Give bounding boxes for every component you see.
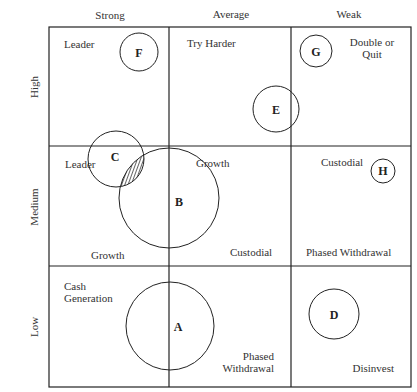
cell-medium-average-top-label: Growth xyxy=(196,157,230,169)
row-header-medium: Medium xyxy=(28,188,40,226)
cell-medium-weak-bottom-label: Phased Withdrawal xyxy=(306,246,391,258)
column-header-strong: Strong xyxy=(95,9,125,21)
matrix-grid xyxy=(49,27,411,387)
cell-medium-weak-top-label: Custodial xyxy=(321,156,363,168)
bubble-a-circle xyxy=(126,282,214,370)
column-header-weak: Weak xyxy=(337,8,362,20)
bubble-c-label: C xyxy=(111,150,120,164)
cell-low-average-label-1: Phased xyxy=(243,350,275,362)
bubble-d-label: D xyxy=(330,308,339,322)
bubble-a-label: A xyxy=(174,320,183,334)
policy-matrix-diagram: Strong Average Weak High Medium Low Lead… xyxy=(0,0,417,392)
row-header-high: High xyxy=(28,76,40,99)
bubble-g-label: G xyxy=(311,45,320,59)
cell-high-weak-label-2: Quit xyxy=(362,48,382,60)
cell-medium-strong-bottom-label: Growth xyxy=(91,249,125,261)
bubble-b-label: B xyxy=(175,195,183,209)
cell-high-average-label: Try Harder xyxy=(187,37,236,49)
bubble-e-label: E xyxy=(272,103,280,117)
bubble-h-label: H xyxy=(378,164,388,178)
column-header-average: Average xyxy=(213,8,250,20)
cell-high-weak-label-1: Double or xyxy=(350,36,395,48)
cell-low-strong-label-2: Generation xyxy=(64,292,113,304)
row-header-low: Low xyxy=(28,317,40,337)
cell-low-strong-label-1: Cash xyxy=(64,280,87,292)
cell-medium-average-bottom-label: Custodial xyxy=(230,246,272,258)
cell-high-strong-label: Leader xyxy=(64,38,95,50)
cell-low-weak-label: Disinvest xyxy=(352,362,394,374)
cell-medium-strong-top-label: Leader xyxy=(65,158,96,170)
bubble-f-label: F xyxy=(135,46,142,60)
cell-low-average-label-2: Withdrawal xyxy=(223,362,274,374)
